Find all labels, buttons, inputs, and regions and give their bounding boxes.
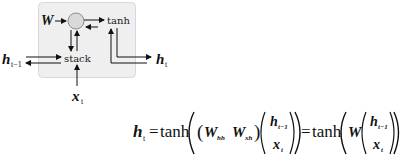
eq-vec2-top: h [370, 114, 378, 129]
matmul-node [68, 13, 84, 29]
eq-paren-outer-right [295, 112, 300, 154]
eq-vec2-bottom-sub: t [381, 146, 384, 154]
eq-lhs-sub: t [143, 134, 146, 143]
eq-vec-top: h [270, 114, 278, 129]
eq-w-xh-sub: xh [244, 134, 253, 142]
weight-label: W [41, 13, 55, 28]
eq-vec-top-sub: t−1 [278, 123, 288, 131]
input-sub: t [81, 97, 84, 106]
prev-hidden-label: h [2, 51, 10, 67]
eq-paren-inner-right: ) [254, 121, 260, 143]
eq-equals-2: = [301, 122, 311, 141]
eq-equals-1: = [149, 122, 159, 141]
eq-paren-outer-left [189, 112, 194, 154]
eq-vec2-bottom: x [372, 137, 380, 152]
eq-vec2-top-sub: t−1 [378, 123, 388, 131]
eq-vec2-paren-left [362, 112, 366, 154]
eq-paren2-outer-left [341, 112, 346, 154]
eq-w-hh-sub: hh [217, 134, 225, 142]
rnn-equation: h t = tanh ( W hh W xh ) h t−1 x t = tan… [133, 112, 399, 154]
eq-paren-inner-left: ( [197, 121, 203, 143]
output-label: h [156, 51, 164, 67]
eq-vec-bottom-sub: t [281, 146, 284, 154]
eq-w: W [348, 124, 363, 140]
input-label: x [71, 88, 80, 104]
eq-vec2-paren-right [390, 112, 394, 154]
eq-tanh-1: tanh [160, 122, 190, 141]
stack-label: stack [64, 53, 92, 64]
eq-vec-paren-left [261, 112, 265, 154]
rnn-cell-diagram: W tanh stack h t−1 x t h t h t = tanh ( … [0, 0, 401, 157]
eq-tanh-2: tanh [312, 122, 342, 141]
eq-paren2-outer-right [394, 112, 399, 154]
output-sub: t [165, 60, 168, 69]
prev-hidden-sub: t−1 [11, 60, 22, 69]
eq-vec-bottom: x [272, 137, 280, 152]
tanh-label: tanh [107, 15, 130, 26]
eq-vec-paren-right [290, 112, 294, 154]
eq-lhs: h [133, 122, 142, 141]
